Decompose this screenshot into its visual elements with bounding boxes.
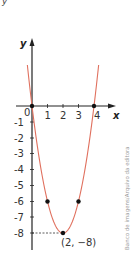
x-tick-label: 0: [24, 107, 30, 118]
image-credit: Banco de imagens/Arquivo da editora: [124, 146, 130, 250]
point-1-neg6: [45, 199, 49, 203]
parabola-chart: y x 0 1 2 3 4 -1 -2 -3 -4 -5 -6 -7 -8: [0, 0, 136, 263]
x-axis-label: x: [112, 110, 120, 121]
y-tick-label: -6: [14, 196, 24, 207]
y-tick-label: -1: [14, 117, 24, 128]
y-tick-label: -2: [14, 133, 24, 144]
y-axis-label: y: [20, 38, 27, 49]
vertex-point: [61, 231, 65, 235]
y-tick-label: -7: [14, 212, 24, 223]
parabola-curve: [27, 65, 98, 233]
point-4-0: [92, 104, 96, 108]
y-axis-arrow-icon: [30, 38, 35, 46]
y-tick-label: -4: [14, 164, 24, 175]
x-tick-label: 1: [45, 110, 51, 121]
point-0-0: [30, 104, 34, 108]
y-tick-label: -5: [14, 180, 24, 191]
y-tick-label: -8: [14, 228, 24, 239]
vertex-annotation: (2, −8): [61, 237, 96, 248]
y-tick-label: -3: [14, 148, 24, 159]
x-tick-label: 3: [76, 110, 82, 121]
point-3-neg6: [76, 199, 80, 203]
x-axis-arrow-icon: [108, 104, 116, 109]
data-points: [30, 104, 96, 235]
x-tick-label: 2: [60, 110, 66, 121]
x-tick-label: 4: [94, 110, 100, 121]
